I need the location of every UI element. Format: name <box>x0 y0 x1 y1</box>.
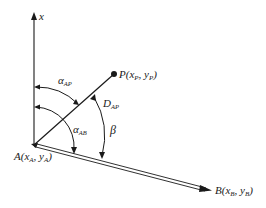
axis-arrow-icon <box>31 12 37 20</box>
segment-ab <box>31 143 212 192</box>
distance-dap-label: DAP <box>102 97 119 110</box>
point-b-label: B(xB, yB) <box>215 184 253 198</box>
point-p-dot <box>111 71 117 77</box>
angle-diagram: x P(xP, yP) A(xA, yA) B(xB, yB) <box>0 0 266 208</box>
alpha-ap-arc <box>34 85 79 106</box>
alpha-ab-label: αAB <box>73 123 87 136</box>
alpha-ap-label: αAP <box>58 74 72 87</box>
point-a-label: A(xA, yA) <box>13 150 52 164</box>
beta-label: β <box>109 123 116 137</box>
x-axis: x <box>31 10 44 146</box>
point-p-label: P(xP, yP) <box>118 68 157 82</box>
ab-arrow-icon <box>199 185 212 192</box>
x-axis-label: x <box>38 10 44 22</box>
